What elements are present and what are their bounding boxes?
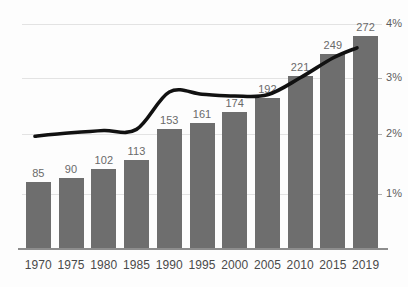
bar-1985[interactable] — [124, 160, 149, 248]
bar-value-label-2005: 192 — [247, 83, 287, 95]
bar-value-label-2019: 272 — [346, 21, 386, 33]
bar-2019[interactable] — [353, 36, 378, 248]
bar-1980[interactable] — [91, 169, 116, 248]
bar-2000[interactable] — [222, 112, 247, 248]
chart-container: 4% 3% 2% 1% 8519709019751021980113198515… — [0, 0, 408, 287]
x-axis-label-2019: 2019 — [344, 258, 388, 272]
bar-1975[interactable] — [59, 178, 84, 248]
bar-1970[interactable] — [26, 182, 51, 248]
bar-value-label-2000: 174 — [215, 97, 255, 109]
bar-value-label-1985: 113 — [117, 145, 157, 157]
bar-1990[interactable] — [157, 129, 182, 248]
bar-value-label-2015: 249 — [313, 39, 353, 51]
gridline-4pct — [22, 24, 382, 25]
bar-value-label-2010: 221 — [280, 61, 320, 73]
y-axis-label-3pct: 3% — [386, 71, 402, 83]
bar-2005[interactable] — [255, 98, 280, 248]
bar-2015[interactable] — [320, 54, 345, 248]
x-axis-baseline — [18, 248, 388, 250]
y-axis-label-2pct: 2% — [386, 127, 402, 139]
bar-value-label-1995: 161 — [182, 108, 222, 120]
bar-1995[interactable] — [190, 123, 215, 248]
y-axis-label-1pct: 1% — [386, 187, 402, 199]
plot-area: 4% 3% 2% 1% 8519709019751021980113198515… — [0, 0, 408, 287]
bar-2010[interactable] — [288, 76, 313, 248]
y-axis-label-4pct: 4% — [386, 17, 402, 29]
